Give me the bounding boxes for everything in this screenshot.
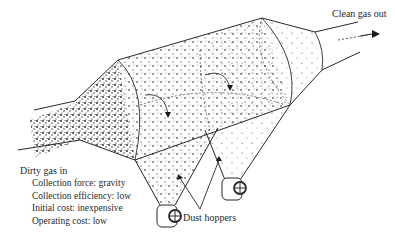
inlet-duct — [18, 101, 80, 157]
property-operating-cost: Operating cost: low — [32, 215, 131, 228]
outlet-arrow-icon — [372, 30, 380, 38]
hoppers-label: Dust hoppers — [183, 212, 236, 224]
property-initial-cost: Initial cost: inexpensive — [32, 202, 131, 215]
property-collection-efficiency: Collection efficiency: low — [32, 190, 131, 203]
outlet-label: Clean gas out — [332, 8, 386, 20]
collector-properties: Collection force: gravity Collection eff… — [32, 177, 131, 227]
inlet-label: Dirty gas in — [20, 165, 67, 177]
property-collection-force: Collection force: gravity — [32, 177, 131, 190]
